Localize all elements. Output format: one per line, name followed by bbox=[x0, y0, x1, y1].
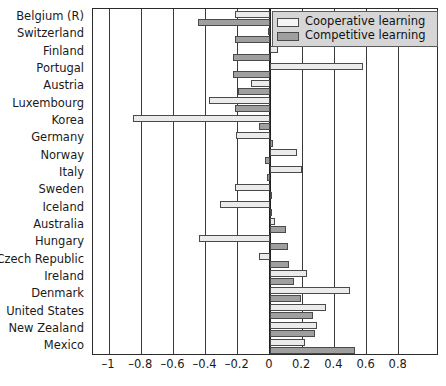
y-axis-labels: Belgium (R)SwitzerlandFinlandPortugalAus… bbox=[0, 8, 88, 355]
y-axis-label: Switzerland bbox=[0, 25, 88, 42]
x-axis-tick-label: –0.8 bbox=[128, 359, 152, 371]
bar-competitive bbox=[198, 19, 270, 26]
legend-item-cooperative: Cooperative learning bbox=[277, 15, 432, 29]
bar-competitive bbox=[259, 123, 270, 130]
bar-cooperative bbox=[270, 304, 326, 311]
bar-cooperative bbox=[270, 322, 317, 329]
y-axis-label: Austria bbox=[0, 77, 88, 94]
bar-competitive bbox=[270, 209, 272, 216]
bar-row bbox=[93, 268, 437, 285]
bar-row bbox=[93, 182, 437, 199]
y-axis-label: Italy bbox=[0, 164, 88, 181]
bar-row bbox=[93, 164, 437, 181]
bar-cooperative bbox=[235, 11, 270, 18]
bar-row bbox=[93, 251, 437, 268]
y-axis-label: Australia bbox=[0, 216, 88, 233]
x-axis-tick-label: –1 bbox=[102, 359, 115, 371]
bar-cooperative bbox=[270, 287, 350, 294]
bar-competitive bbox=[270, 192, 272, 199]
bar-competitive bbox=[235, 105, 270, 112]
bar-cooperative bbox=[259, 253, 270, 260]
bar-cooperative bbox=[199, 235, 270, 242]
x-axis-tick-label: –0.6 bbox=[160, 359, 184, 371]
bar-cooperative bbox=[270, 149, 297, 156]
bar-row bbox=[93, 216, 437, 233]
y-axis-label: Belgium (R) bbox=[0, 8, 88, 25]
bar-cooperative bbox=[270, 339, 305, 346]
y-axis-label: Denmark bbox=[0, 286, 88, 303]
x-axis: –1–0.8–0.6–0.4–0.200.20.40.60.8 bbox=[92, 355, 438, 383]
bar-competitive bbox=[267, 174, 270, 181]
bar-competitive bbox=[270, 278, 294, 285]
bar-cooperative bbox=[251, 80, 270, 87]
x-axis-tick-label: –0.2 bbox=[225, 359, 249, 371]
bar-row bbox=[93, 233, 437, 250]
y-axis-label: Iceland bbox=[0, 199, 88, 216]
light-gray-swatch-icon bbox=[277, 18, 299, 27]
bar-row bbox=[93, 95, 437, 112]
plot-area bbox=[92, 8, 438, 355]
bar-rows bbox=[93, 9, 437, 354]
bar-cooperative bbox=[235, 184, 270, 191]
bar-competitive bbox=[238, 88, 270, 95]
bar-row bbox=[93, 61, 437, 78]
bar-competitive bbox=[265, 157, 270, 164]
x-axis-tick-label: 0.4 bbox=[324, 359, 342, 371]
bar-cooperative bbox=[209, 97, 270, 104]
bar-competitive bbox=[270, 261, 289, 268]
bar-row bbox=[93, 113, 437, 130]
x-axis-tick-label: 0.2 bbox=[292, 359, 310, 371]
x-axis-tick-label: –0.4 bbox=[193, 359, 217, 371]
y-axis-label: Czech Republic bbox=[0, 251, 88, 268]
bar-competitive bbox=[235, 36, 270, 43]
bar-competitive bbox=[270, 243, 288, 250]
y-axis-label: Mexico bbox=[0, 338, 88, 355]
legend-item-competitive: Competitive learning bbox=[277, 29, 432, 43]
y-axis-label: New Zealand bbox=[0, 320, 88, 337]
legend-label-competitive: Competitive learning bbox=[305, 30, 426, 42]
bar-competitive bbox=[233, 54, 270, 61]
bar-competitive bbox=[270, 330, 315, 337]
bar-cooperative bbox=[236, 132, 270, 139]
bar-competitive bbox=[270, 347, 355, 354]
bar-cooperative bbox=[268, 28, 270, 35]
y-axis-label: Portugal bbox=[0, 60, 88, 77]
bar-row bbox=[93, 78, 437, 95]
bar-row bbox=[93, 302, 437, 319]
bar-row bbox=[93, 130, 437, 147]
bar-row bbox=[93, 337, 437, 354]
bar-competitive bbox=[270, 226, 286, 233]
bar-cooperative bbox=[270, 63, 363, 70]
bar-cooperative bbox=[270, 166, 302, 173]
y-axis-label: Ireland bbox=[0, 268, 88, 285]
bar-chart: Belgium (R)SwitzerlandFinlandPortugalAus… bbox=[0, 0, 446, 386]
y-axis-label: United States bbox=[0, 303, 88, 320]
legend-label-cooperative: Cooperative learning bbox=[305, 16, 425, 28]
bar-competitive bbox=[270, 295, 301, 302]
bar-cooperative bbox=[270, 218, 275, 225]
bar-row bbox=[93, 285, 437, 302]
y-axis-label: Finland bbox=[0, 43, 88, 60]
bar-row bbox=[93, 199, 437, 216]
y-axis-label: Korea bbox=[0, 112, 88, 129]
bar-row bbox=[93, 147, 437, 164]
bar-cooperative bbox=[133, 115, 270, 122]
x-axis-tick-label: 0.8 bbox=[389, 359, 407, 371]
y-axis-label: Germany bbox=[0, 129, 88, 146]
chart-legend: Cooperative learning Competitive learnin… bbox=[272, 11, 438, 47]
y-axis-label: Hungary bbox=[0, 233, 88, 250]
bar-competitive bbox=[270, 140, 273, 147]
bar-cooperative bbox=[270, 270, 307, 277]
bar-row bbox=[93, 320, 437, 337]
x-axis-tick-label: 0 bbox=[265, 359, 272, 371]
bar-cooperative bbox=[220, 201, 270, 208]
bar-competitive bbox=[233, 71, 270, 78]
dark-gray-swatch-icon bbox=[277, 32, 299, 41]
x-axis-tick-label: 0.6 bbox=[356, 359, 374, 371]
y-axis-label: Sweden bbox=[0, 181, 88, 198]
y-axis-label: Luxembourg bbox=[0, 95, 88, 112]
bar-competitive bbox=[270, 312, 313, 319]
y-axis-label: Norway bbox=[0, 147, 88, 164]
